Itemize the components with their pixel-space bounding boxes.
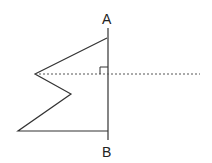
label-a: A [102,11,112,27]
right-angle-marker [100,67,108,74]
label-b: B [102,144,111,160]
geometry-figure: A B [0,0,212,163]
zigzag-shape [18,38,108,131]
